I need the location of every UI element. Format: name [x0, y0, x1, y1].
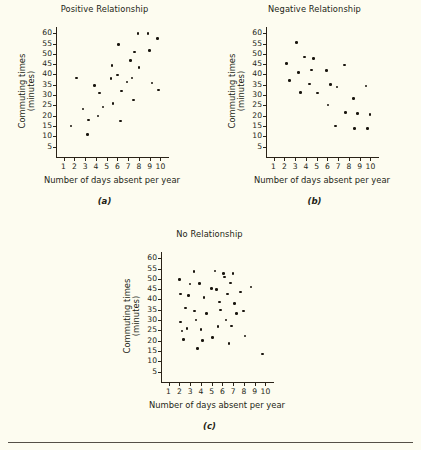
y-tick-c	[158, 372, 161, 373]
y-tick-b	[263, 54, 266, 55]
x-tick-a	[85, 158, 86, 161]
data-point	[235, 312, 238, 315]
data-point	[214, 270, 217, 273]
data-point	[336, 86, 339, 89]
data-point	[120, 90, 123, 93]
data-point	[148, 49, 151, 52]
x-tick-b	[370, 158, 371, 161]
data-point	[112, 102, 115, 105]
x-tick-a	[64, 158, 65, 161]
x-tick-c	[233, 383, 234, 386]
x-tick-c	[179, 383, 180, 386]
data-point	[201, 339, 204, 342]
data-point	[215, 288, 218, 291]
y-tick-c	[158, 258, 161, 259]
data-point	[117, 43, 120, 46]
data-point	[198, 282, 201, 285]
x-tick-a	[74, 158, 75, 161]
y-axis-label-a: Commuting times(minutes)	[18, 45, 36, 137]
figure-container: Positive Relationship5101520253035404550…	[0, 0, 421, 450]
y-tick-b	[263, 95, 266, 96]
x-tick-b	[274, 158, 275, 161]
data-point	[233, 302, 236, 305]
y-tick-c	[158, 361, 161, 362]
y-tick-b	[263, 136, 266, 137]
y-tick-a	[53, 116, 56, 117]
y-tick-label-a: 60	[30, 29, 52, 37]
data-point	[344, 111, 347, 114]
y-tick-label-b: 60	[240, 29, 262, 37]
data-point	[316, 92, 319, 95]
data-point	[250, 286, 253, 289]
y-tick-a	[53, 136, 56, 137]
data-point	[297, 71, 300, 74]
data-point	[303, 56, 306, 59]
data-point	[369, 113, 372, 116]
data-point	[138, 66, 141, 69]
x-tick-c	[201, 383, 202, 386]
y-tick-a	[53, 85, 56, 86]
y-axis-line-b	[266, 27, 267, 158]
data-point	[226, 293, 229, 296]
y-tick-b	[263, 126, 266, 127]
data-point	[353, 127, 356, 130]
y-tick-a	[53, 54, 56, 55]
data-point	[186, 327, 189, 330]
y-tick-b	[263, 74, 266, 75]
data-point	[308, 83, 311, 86]
x-tick-c	[222, 383, 223, 386]
data-point	[312, 57, 315, 60]
chart-title-b: Negative Relationship	[212, 4, 417, 14]
data-point	[334, 125, 337, 128]
data-point	[97, 115, 100, 118]
y-axis-label-c: Commuting times(minutes)	[123, 270, 141, 362]
x-tick-label-a: 10	[152, 163, 168, 171]
data-point	[196, 347, 199, 350]
data-point	[178, 278, 181, 281]
y-tick-c	[158, 310, 161, 311]
x-tick-c	[212, 383, 213, 386]
x-axis-line-b	[266, 157, 379, 158]
data-point	[184, 307, 187, 310]
data-point	[189, 283, 192, 286]
x-tick-label-c: 10	[257, 388, 273, 396]
data-point	[210, 287, 213, 290]
data-point	[219, 309, 222, 312]
y-tick-a	[53, 126, 56, 127]
x-tick-a	[139, 158, 140, 161]
y-tick-b	[263, 85, 266, 86]
y-tick-c	[158, 299, 161, 300]
footer-divider	[8, 442, 413, 443]
panel-caption-b: (b)	[212, 196, 417, 206]
data-point	[132, 99, 135, 102]
y-tick-b	[263, 44, 266, 45]
y-tick-c	[158, 279, 161, 280]
y-tick-a	[53, 33, 56, 34]
y-axis-label-line2-c: (minutes)	[132, 270, 141, 362]
data-point	[129, 59, 132, 62]
y-tick-b	[263, 147, 266, 148]
data-point	[329, 83, 332, 86]
x-tick-c	[265, 383, 266, 386]
y-tick-b	[263, 116, 266, 117]
data-point	[133, 51, 136, 54]
y-tick-label-c: 5	[135, 368, 157, 376]
data-point	[111, 64, 114, 67]
y-tick-c	[158, 351, 161, 352]
y-tick-c	[158, 330, 161, 331]
data-point	[131, 77, 134, 80]
data-point	[310, 69, 313, 72]
data-point	[126, 81, 129, 84]
data-point	[75, 77, 78, 80]
data-point	[343, 64, 346, 67]
y-tick-c	[158, 341, 161, 342]
data-point	[285, 62, 288, 65]
panel-caption-a: (a)	[2, 196, 207, 206]
data-point	[356, 112, 359, 115]
data-point	[228, 342, 231, 345]
chart-title-a: Positive Relationship	[2, 4, 207, 14]
x-tick-b	[327, 158, 328, 161]
x-tick-b	[306, 158, 307, 161]
data-point	[195, 319, 198, 322]
x-axis-line-a	[56, 157, 169, 158]
